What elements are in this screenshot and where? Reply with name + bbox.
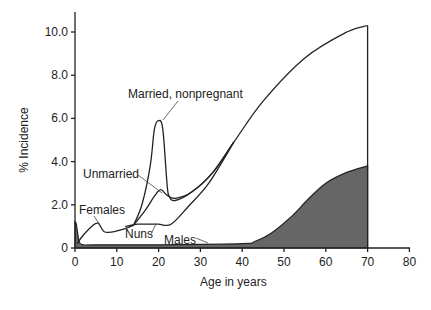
annotation-unmarried: Unmarried [83,167,139,181]
leader-married [163,101,178,120]
y-tick-label: 6.0 [51,111,68,125]
leader-unmarried [138,175,162,193]
x-tick-label: 30 [194,255,208,269]
y-tick-label: 0 [61,241,68,255]
x-tick-label: 20 [152,255,166,269]
x-tick-label: 40 [236,255,250,269]
x-tick-label: 80 [403,255,417,269]
incidence-chart: 01020304050607080 02.04.06.08.010.0 Age … [0,0,431,310]
y-tick-label: 2.0 [51,198,68,212]
x-tick-label: 60 [319,255,333,269]
x-tick-label: 50 [277,255,291,269]
unmarried-curve [134,142,234,225]
y-tick-label: 4.0 [51,155,68,169]
annotation-females: Females [79,203,125,217]
x-tick-label: 70 [361,255,375,269]
x-axis-title: Age in years [200,275,267,289]
x-tick-label: 0 [72,255,79,269]
nuns-curve [125,142,234,226]
annotation-nuns: Nuns [125,227,153,241]
leader-males [196,238,208,243]
y-axis-ticks: 02.04.06.08.010.0 [45,25,75,255]
x-tick-label: 10 [110,255,124,269]
y-tick-label: 10.0 [45,25,69,39]
annotation-males: Males [164,233,196,247]
annotation-married-nonpregnant: Married, nonpregnant [128,87,243,101]
y-axis-title: % Incidence [17,107,31,173]
y-tick-label: 8.0 [51,68,68,82]
x-axis-ticks: 01020304050607080 [72,248,417,269]
